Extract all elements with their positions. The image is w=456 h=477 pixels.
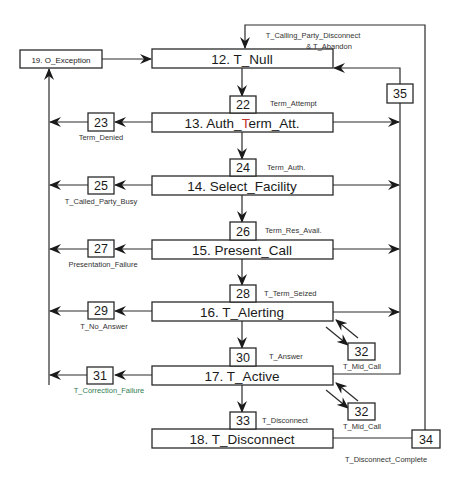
state-select-facility[interactable]: 14. Select_Facility [152, 176, 333, 195]
t-alerting-label: 16. T_Alerting [200, 305, 284, 320]
state-t-active[interactable]: 17. T_Active [152, 366, 333, 385]
dp-24[interactable]: 24 Term_Auth. [230, 159, 305, 176]
dp-27[interactable]: 27 Presentation_Failure [68, 240, 137, 269]
dp-35-label-line2: & T_Abandon [306, 42, 352, 51]
32-to-alerting-arrow [336, 320, 358, 338]
dp-28[interactable]: 28 T_Term_Seized [230, 285, 317, 302]
dp-35-number: 35 [393, 87, 407, 101]
dp-29-number: 29 [94, 304, 108, 318]
dp-28-number: 28 [236, 287, 250, 301]
auth-suffix: erm_Att. [248, 116, 299, 131]
dp-23-number: 23 [94, 116, 108, 130]
dp-25-label: T_Called_Party_Busy [65, 197, 138, 206]
dp-32-active[interactable]: 32 T_Mid_Call [343, 403, 381, 431]
dp-25-number: 25 [94, 179, 108, 193]
dp-33-number: 33 [236, 414, 250, 428]
dp-29[interactable]: 29 T_No_Answer [80, 302, 128, 331]
dp-32-alerting[interactable]: 32 T_Mid_Call [343, 343, 381, 371]
dp-26[interactable]: 26 Term_Res_Avail. [230, 222, 322, 240]
state-auth-term-att[interactable]: 13. Auth_Term_Att. [152, 113, 333, 132]
dp-32-alerting-label: T_Mid_Call [343, 362, 381, 371]
dp-32-active-label: T_Mid_Call [343, 422, 381, 431]
dp-35[interactable]: 35 [387, 84, 413, 103]
t-active-label: 17. T_Active [205, 369, 280, 384]
dp-22-number: 22 [236, 98, 250, 112]
dp-23[interactable]: 23 Term_Denied [79, 113, 124, 142]
dp-32-active-number: 32 [355, 405, 369, 419]
bcsm-diagram: 19. O_Exception 12. T_Null 13. Auth_Term… [0, 0, 456, 477]
state-present-call[interactable]: 15. Present_Call [152, 240, 333, 259]
t-disconnect-label: 18. T_Disconnect [190, 432, 295, 447]
dp-28-label: T_Term_Seized [264, 289, 317, 298]
alerting-to-32-arrow [326, 327, 348, 345]
present-call-label: 15. Present_Call [192, 243, 292, 258]
dp-22[interactable]: 22 Term_Attempt [230, 96, 318, 113]
dp-24-label: Term_Auth. [267, 163, 305, 172]
dp-25[interactable]: 25 T_Called_Party_Busy [65, 177, 138, 206]
state-t-null[interactable]: 12. T_Null [152, 49, 333, 68]
dp-30-number: 30 [236, 351, 250, 365]
t-null-label: 12. T_Null [211, 52, 272, 67]
select-facility-label: 14. Select_Facility [187, 179, 297, 194]
dp-31[interactable]: 31 T_Correction_Failure [74, 367, 144, 395]
state-o-exception[interactable]: 19. O_Exception [20, 50, 102, 68]
dp-30-label: T_Answer [269, 352, 303, 361]
dp-32-alerting-number: 32 [355, 345, 369, 359]
dp-31-label: T_Correction_Failure [74, 386, 144, 395]
dp-33[interactable]: 33 T_Disconnect [230, 412, 309, 429]
dp-34[interactable]: 34 [412, 430, 440, 448]
dp-33-label: T_Disconnect [262, 416, 309, 425]
auth-term-att-label: 13. Auth_Term_Att. [185, 116, 300, 131]
active-to-32-arrow [326, 390, 348, 408]
state-t-disconnect[interactable]: 18. T_Disconnect [152, 429, 333, 448]
dp-30[interactable]: 30 T_Answer [230, 348, 303, 366]
dp-35-label-line1: T_Calling_Party_Disconnect [266, 31, 362, 40]
dp-27-number: 27 [94, 242, 108, 256]
dp-22-label: Term_Attempt [270, 99, 318, 108]
abandon-loop [333, 68, 400, 374]
dp-23-label: Term_Denied [79, 133, 124, 142]
32-to-active-arrow [336, 383, 358, 401]
dp-24-number: 24 [236, 161, 250, 175]
state-t-alerting[interactable]: 16. T_Alerting [152, 302, 333, 321]
dp-34-label: T_Disconnect_Complete [345, 455, 427, 464]
dp-26-number: 26 [236, 225, 250, 239]
dp-27-label: Presentation_Failure [68, 260, 137, 269]
dp-34-number: 34 [419, 433, 433, 447]
dp-26-label: Term_Res_Avail. [265, 226, 322, 235]
auth-prefix: 13. Auth_ [185, 116, 243, 131]
dp-29-label: T_No_Answer [80, 322, 128, 331]
dp-31-number: 31 [93, 369, 107, 383]
o-exception-label: 19. O_Exception [31, 56, 90, 65]
